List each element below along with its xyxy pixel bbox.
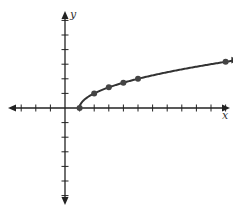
data-point bbox=[120, 80, 126, 86]
x-axis-left-arrow-icon bbox=[8, 105, 16, 112]
data-point bbox=[223, 59, 229, 65]
y-axis-down-arrow-icon bbox=[62, 197, 69, 205]
coordinate-plane: x y bbox=[0, 0, 233, 218]
data-point bbox=[91, 90, 97, 96]
data-point bbox=[106, 84, 112, 90]
data-point bbox=[77, 105, 83, 111]
axes bbox=[8, 11, 233, 205]
sqrt-curve bbox=[80, 60, 233, 108]
data-points bbox=[77, 59, 229, 111]
data-point bbox=[135, 76, 141, 82]
x-axis-label: x bbox=[222, 109, 229, 122]
y-axis-up-arrow-icon bbox=[62, 11, 69, 19]
y-axis-label: y bbox=[69, 8, 77, 21]
